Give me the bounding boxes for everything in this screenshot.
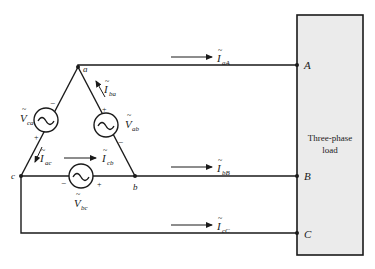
node-c-label: c bbox=[11, 171, 15, 181]
label-IcC: ~ I cC bbox=[216, 214, 230, 235]
svg-text:ac: ac bbox=[45, 159, 53, 167]
label-vab: ~ V ab bbox=[125, 111, 140, 133]
svg-text:ab: ab bbox=[132, 125, 140, 133]
vbc-plus: + bbox=[97, 180, 102, 189]
label-Iac: ~ I ac bbox=[39, 146, 53, 167]
line-a-wire bbox=[78, 65, 297, 67]
svg-text:bc: bc bbox=[81, 204, 89, 212]
label-IaA: ~ I aA bbox=[216, 46, 231, 67]
node-b-label: b bbox=[133, 182, 138, 192]
node-a bbox=[76, 65, 80, 69]
vca-plus: + bbox=[34, 133, 39, 142]
vab-plus: + bbox=[102, 105, 107, 114]
label-vbc: ~ V bc bbox=[74, 190, 89, 212]
source-vca bbox=[34, 108, 58, 132]
node-B-label: B bbox=[304, 170, 311, 182]
vbc-minus: − bbox=[61, 178, 66, 188]
label-IbB: ~ I bB bbox=[216, 156, 231, 177]
vca-minus: − bbox=[50, 98, 55, 108]
node-B bbox=[295, 174, 299, 178]
svg-text:bB: bB bbox=[222, 169, 231, 177]
load-label-line1: Three-phase bbox=[308, 133, 352, 143]
load-label-line2: load bbox=[322, 145, 338, 155]
node-A-label: A bbox=[303, 59, 311, 71]
node-A bbox=[295, 63, 299, 67]
node-C bbox=[295, 231, 299, 235]
svg-text:cb: cb bbox=[107, 159, 114, 167]
source-vbc bbox=[69, 164, 93, 188]
node-a-label: a bbox=[83, 64, 88, 74]
label-vca: ~ V ca bbox=[20, 105, 34, 127]
svg-text:ba: ba bbox=[109, 90, 117, 98]
svg-text:aA: aA bbox=[222, 59, 231, 67]
node-b bbox=[133, 174, 137, 178]
svg-text:ca: ca bbox=[27, 119, 34, 127]
vab-minus: − bbox=[118, 137, 123, 147]
svg-text:cC: cC bbox=[222, 227, 230, 235]
circuit-diagram: Three-phase load − + + − − + ~ V ca ~ V … bbox=[0, 0, 375, 269]
node-C-label: C bbox=[304, 228, 312, 240]
label-Iba: ~ I ba bbox=[103, 77, 117, 98]
source-vab bbox=[94, 113, 118, 137]
node-c bbox=[19, 174, 23, 178]
label-Icb: ~ I cb bbox=[101, 146, 114, 167]
